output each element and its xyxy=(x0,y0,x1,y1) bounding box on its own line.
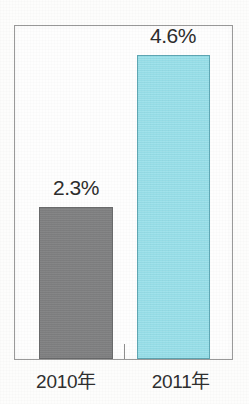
category-label-2011: 2011年 xyxy=(129,366,233,393)
value-label-2011: 4.6% xyxy=(124,24,222,48)
bar-2011 xyxy=(137,55,210,359)
value-label-2010: 2.3% xyxy=(27,176,125,200)
category-label-2010: 2010年 xyxy=(14,366,118,393)
bar-2010 xyxy=(39,207,113,359)
category-axis-labels: 2010年 2011年 xyxy=(14,366,233,393)
axis-tick-mark xyxy=(124,344,125,359)
bar-chart-figure: 2.3% 4.6% 2010年 2011年 xyxy=(0,0,249,404)
